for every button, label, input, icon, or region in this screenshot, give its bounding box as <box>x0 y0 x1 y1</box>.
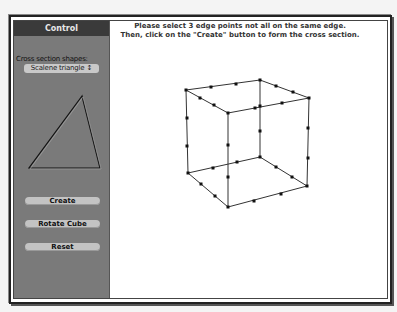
edge-point[interactable] <box>213 104 216 107</box>
edge-point[interactable] <box>275 85 278 88</box>
edge-point[interactable] <box>307 127 310 130</box>
edge-point[interactable] <box>306 185 309 188</box>
edge-point[interactable] <box>200 183 203 186</box>
edge-point[interactable] <box>259 156 262 159</box>
edge-point[interactable] <box>280 193 283 196</box>
edge-point[interactable] <box>275 166 278 169</box>
edge-point[interactable] <box>281 102 284 105</box>
edge-point[interactable] <box>292 91 295 94</box>
edge-point[interactable] <box>259 79 262 82</box>
edge-point[interactable] <box>259 105 262 108</box>
edge-point[interactable] <box>308 97 311 100</box>
edge-point[interactable] <box>185 89 188 92</box>
edge-point[interactable] <box>235 83 238 86</box>
edge-point[interactable] <box>186 145 189 148</box>
edge-point[interactable] <box>227 176 230 179</box>
edge-point[interactable] <box>253 200 256 203</box>
edge-point[interactable] <box>227 112 230 115</box>
edge-point[interactable] <box>212 167 215 170</box>
edge-point[interactable] <box>291 176 294 179</box>
edge-points <box>185 79 311 209</box>
edge-point[interactable] <box>227 144 230 147</box>
cube-edges <box>186 80 309 207</box>
edge-point[interactable] <box>199 97 202 100</box>
edge-point[interactable] <box>254 107 257 110</box>
edge-point[interactable] <box>227 206 230 209</box>
cube-canvas[interactable] <box>0 0 397 312</box>
edge-point[interactable] <box>259 130 262 133</box>
edge-point[interactable] <box>214 195 217 198</box>
edge-point[interactable] <box>210 86 213 89</box>
edge-point[interactable] <box>307 157 310 160</box>
edge-point[interactable] <box>187 172 190 175</box>
edge-point[interactable] <box>186 117 189 120</box>
edge-point[interactable] <box>236 161 239 164</box>
